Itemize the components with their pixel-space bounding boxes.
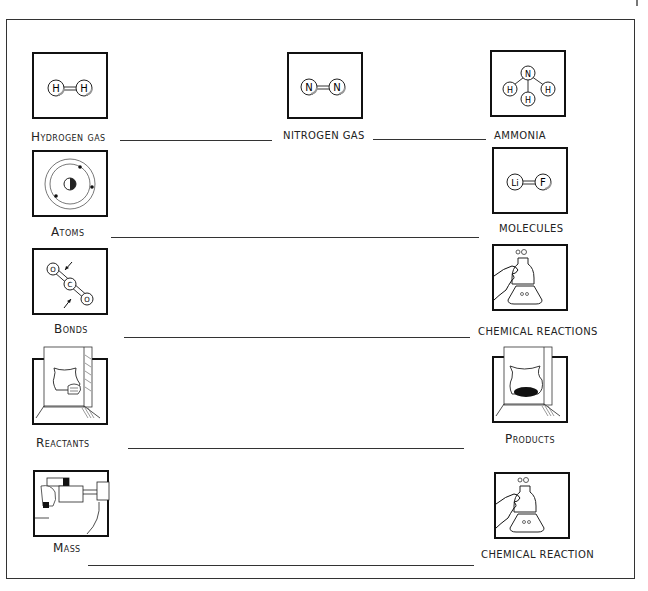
atom-h1: H	[52, 83, 60, 94]
svg-text:N: N	[305, 82, 312, 93]
label-atoms: Atoms	[51, 225, 84, 239]
svg-text:N: N	[333, 82, 340, 93]
lif-molecule-icon: Li F	[492, 147, 568, 214]
match-line-3[interactable]	[124, 337, 470, 338]
co2-bonds-icon: O C O	[32, 248, 108, 315]
svg-text:O: O	[50, 266, 56, 274]
label-chemical-reaction: CHEMICAL REACTION	[481, 549, 594, 560]
label-mass: Mass	[53, 541, 81, 555]
match-line-5[interactable]	[88, 565, 474, 566]
label-nitrogen-gas: NITROGEN GAS	[283, 130, 365, 141]
label-hydrogen-gas: Hydrogen gas	[31, 130, 106, 144]
svg-text:F: F	[540, 177, 546, 188]
label-products: Products	[505, 432, 555, 446]
svg-text:N: N	[525, 70, 531, 79]
label-ammonia: AMMONIA	[494, 130, 546, 141]
match-line-1b[interactable]	[373, 139, 486, 140]
nitrogen-molecule-icon: N N	[287, 52, 363, 119]
corner-mark	[636, 0, 638, 6]
atom-h2: H	[80, 83, 88, 94]
label-bonds: Bonds	[54, 322, 88, 336]
svg-text:O: O	[84, 296, 90, 304]
balance-scale-icon	[33, 470, 109, 537]
atom-icon	[32, 150, 108, 217]
svg-text:H: H	[525, 96, 531, 105]
label-molecules: MOLECULES	[499, 223, 564, 234]
hydrogen-molecule-icon: H H	[32, 52, 108, 119]
match-line-1a[interactable]	[120, 140, 272, 141]
svg-text:H: H	[545, 86, 551, 95]
ammonia-molecule-icon: N H H H	[490, 50, 566, 117]
fireplace-wood-icon	[32, 358, 108, 425]
flask-reaction-icon-2	[494, 472, 570, 539]
svg-text:H: H	[507, 86, 513, 95]
label-chemical-reactions: CHEMICAL REACTIONS	[478, 326, 598, 337]
match-line-2[interactable]	[111, 237, 479, 238]
match-line-4[interactable]	[128, 448, 464, 449]
svg-text:Li: Li	[511, 178, 519, 188]
svg-text:C: C	[68, 281, 73, 289]
fireplace-ash-icon	[492, 356, 568, 423]
flask-reaction-icon	[492, 244, 568, 311]
label-reactants: Reactants	[36, 436, 90, 450]
